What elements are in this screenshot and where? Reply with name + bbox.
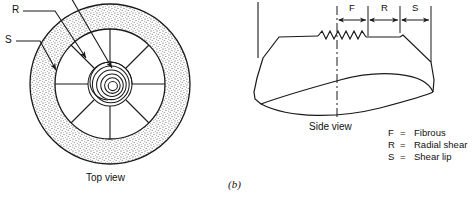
figure-caption: (b): [228, 179, 241, 190]
legend-equals-s: =: [400, 151, 414, 162]
callout-label-r: R: [12, 5, 19, 15]
dimension-label-s: S: [412, 3, 418, 13]
top-view-label: Top view: [86, 173, 125, 183]
specimen-outline: [254, 31, 434, 115]
legend-text-f: Fibrous: [414, 127, 446, 138]
legend-equals-f: =: [400, 127, 414, 138]
shear-lip-region: [28, 2, 194, 168]
legend-key-f: F: [388, 127, 400, 138]
top-view-diagram: [16, 0, 194, 168]
side-view-label: Side view: [309, 122, 352, 132]
legend-item-f: F = Fibrous: [388, 127, 467, 139]
legend-text-s: Shear lip: [414, 151, 452, 162]
callout-label-s: S: [5, 35, 12, 45]
side-view-diagram: [254, 2, 434, 118]
legend-text-r: Radial shear: [414, 139, 467, 150]
legend: F = Fibrous R = Radial shear S = Shear l…: [388, 127, 467, 163]
dimension-label-f: F: [349, 3, 355, 13]
legend-key-r: R: [388, 139, 400, 150]
fracture-surface-figure: [0, 0, 473, 199]
dimension-label-r: R: [381, 3, 388, 13]
legend-item-r: R = Radial shear: [388, 139, 467, 151]
legend-key-s: S: [388, 151, 400, 162]
legend-equals-r: =: [400, 139, 414, 150]
legend-item-s: S = Shear lip: [388, 151, 467, 163]
